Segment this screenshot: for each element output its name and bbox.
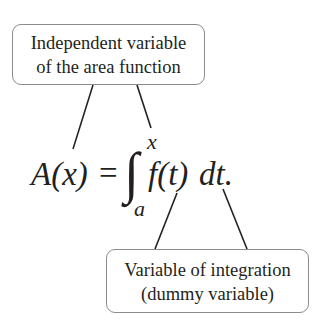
connector-top-to-A-x [73, 85, 93, 149]
integral-sign: ∫ [124, 145, 139, 202]
lower-limit: a [134, 198, 145, 220]
label-bottom-line2: (dummy variable) [107, 282, 308, 306]
label-bottom-line1: Variable of integration [107, 258, 308, 282]
equation-lhs: A(x) [31, 158, 88, 191]
connector-bottom-to-f-t [155, 193, 177, 249]
connector-bottom-to-dt [223, 189, 247, 249]
label-box-variable-of-integration: Variable of integration (dummy variable) [106, 249, 309, 313]
equation-equals: = [99, 157, 118, 190]
label-top-line1: Independent variable [13, 31, 204, 55]
label-top-line2: of the area function [13, 55, 204, 79]
differential: dt. [199, 158, 233, 191]
label-box-independent-variable: Independent variable of the area functio… [12, 24, 205, 85]
connector-top-to-upper-limit [137, 85, 151, 128]
upper-limit: x [147, 131, 157, 153]
integrand: f(t) [148, 158, 188, 191]
